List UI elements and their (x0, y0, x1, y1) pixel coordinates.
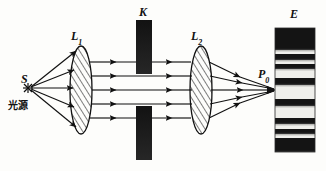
diverging-ray-1 (31, 51, 76, 87)
fringe-edge (275, 105, 315, 106)
fringe-band (275, 85, 315, 99)
fringe-edge (275, 60, 315, 61)
fringe-band (275, 106, 315, 118)
focal-point-label: P0 (258, 68, 269, 83)
fringe-band (275, 28, 315, 50)
fringe-edge (275, 59, 315, 60)
lens1-subscript: 1 (78, 38, 82, 47)
fringe-edge (275, 85, 315, 86)
diverging-ray-4 (31, 89, 74, 107)
fringe-edge (275, 106, 315, 107)
aperture-block-bottom-texture (136, 106, 152, 160)
source-label: S (21, 73, 28, 85)
aperture-block-top-texture (136, 20, 152, 74)
fringe-band (275, 138, 315, 152)
fringe-edge (275, 69, 315, 70)
lens1-label: L1 (71, 30, 82, 45)
converging-ray-5a (209, 103, 240, 118)
fringe-edge (275, 68, 315, 69)
fringe-edge (275, 49, 315, 50)
focus-subscript: 0 (265, 76, 269, 85)
ray-diagram-canvas (0, 0, 326, 171)
fringe-pattern (275, 28, 315, 152)
fringe-edge (275, 124, 315, 125)
diverging-ray-2 (31, 70, 74, 87)
screen-label: E (290, 8, 298, 20)
lens-L1 (70, 46, 92, 134)
fringe-edge (275, 134, 315, 135)
lens2-label: L2 (191, 30, 202, 45)
fringe-edge (275, 84, 315, 85)
converging-ray-4a (210, 97, 242, 104)
lens-L2 (190, 46, 212, 134)
diverging-ray-5 (31, 90, 76, 127)
aperture-label: K (139, 6, 147, 18)
fringe-edge (275, 133, 315, 134)
screen-E (275, 28, 315, 152)
fringe-edge (275, 123, 315, 124)
diverging-ray-bundle (31, 51, 76, 127)
optics-figure: S 光源 L1 K L2 P0 E (0, 0, 326, 171)
converging-ray-2a (210, 76, 242, 83)
source-label-cjk: 光源 (8, 101, 28, 111)
fringe-edge (275, 50, 315, 51)
converging-ray-1a (209, 62, 240, 77)
lens2-subscript: 2 (198, 38, 202, 47)
